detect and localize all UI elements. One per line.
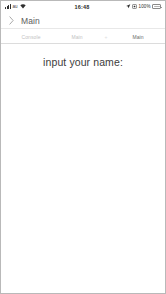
chevron-right-icon[interactable] [7, 15, 15, 27]
battery-icon [152, 4, 161, 9]
prompt-heading: input your name: [1, 44, 165, 68]
status-bar: au 16:48 100% [1, 1, 165, 12]
carrier-label: au [13, 4, 18, 9]
status-bar-left: au [5, 4, 53, 9]
location-arrow-icon [126, 4, 131, 9]
battery-percent-label: 100% [139, 4, 151, 9]
page-title: Main [21, 16, 40, 26]
signal-bars-icon [5, 4, 11, 9]
wifi-icon [20, 4, 26, 9]
clock-label: 16:48 [53, 4, 111, 10]
screen-lock-icon [132, 4, 137, 9]
status-bar-right: 100% [111, 4, 161, 9]
tab-main-active[interactable]: Main [115, 34, 161, 40]
tab-separator-icon: + [97, 34, 115, 40]
phone-screen: au 16:48 100% [0, 0, 166, 294]
content-area: input your name: [1, 44, 165, 293]
tab-bar: Console Main + Main [1, 29, 165, 44]
tab-console[interactable]: Console [5, 34, 57, 40]
navigation-bar: Main [1, 12, 165, 29]
tab-main-secondary[interactable]: Main [57, 34, 97, 40]
